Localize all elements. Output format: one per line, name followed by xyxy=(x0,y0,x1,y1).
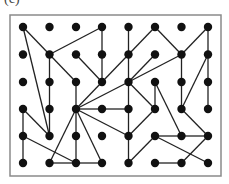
graph-node xyxy=(177,132,185,140)
graph-node xyxy=(204,50,212,58)
graph-node xyxy=(177,105,185,113)
graph-node xyxy=(45,132,53,140)
graph-node xyxy=(98,159,106,167)
graph-edge xyxy=(129,136,156,163)
graph-node xyxy=(151,132,159,140)
graph-node xyxy=(177,159,185,167)
graph-edge xyxy=(155,27,182,55)
graph-node xyxy=(151,105,159,113)
graph-node xyxy=(72,23,80,31)
graph-node xyxy=(204,159,212,167)
graph-node xyxy=(124,78,132,86)
graph-edge xyxy=(76,82,102,109)
graph-node xyxy=(45,23,53,31)
graph-node xyxy=(98,78,106,86)
graph-node xyxy=(45,50,53,58)
graph-node xyxy=(124,23,132,31)
graph-node xyxy=(204,105,212,113)
edges-layer xyxy=(23,27,208,163)
graph-node xyxy=(151,78,159,86)
graph-node xyxy=(177,23,185,31)
graph-edge xyxy=(182,109,209,136)
graph-edge xyxy=(182,27,209,55)
graph-edge xyxy=(23,109,50,136)
graph-edge xyxy=(76,55,102,83)
diagram-frame xyxy=(10,15,221,176)
graph-node xyxy=(98,50,106,58)
graph-edge xyxy=(129,82,156,109)
graph-node xyxy=(45,105,53,113)
graph-node xyxy=(19,132,27,140)
graph-node xyxy=(72,132,80,140)
graph-node xyxy=(72,159,80,167)
graph-node xyxy=(124,50,132,58)
graph-node xyxy=(151,159,159,167)
graph-node xyxy=(19,50,27,58)
graph-edge xyxy=(182,136,209,163)
graph-node xyxy=(72,50,80,58)
graph-node xyxy=(98,132,106,140)
graph-node xyxy=(98,23,106,31)
nodes-layer xyxy=(19,23,212,167)
graph-node xyxy=(151,23,159,31)
graph-node xyxy=(72,78,80,86)
graph-node xyxy=(177,50,185,58)
graph-node xyxy=(19,23,27,31)
grid-graph-diagram xyxy=(0,0,229,184)
graph-edge xyxy=(129,27,156,55)
graph-edge xyxy=(129,109,156,136)
graph-edge xyxy=(129,55,156,83)
graph-edge xyxy=(50,55,77,83)
graph-node xyxy=(151,50,159,58)
graph-node xyxy=(45,159,53,167)
graph-node xyxy=(98,105,106,113)
graph-node xyxy=(124,105,132,113)
graph-node xyxy=(204,78,212,86)
graph-node xyxy=(124,159,132,167)
graph-node xyxy=(204,132,212,140)
graph-edge xyxy=(102,55,129,83)
graph-node xyxy=(19,159,27,167)
graph-node xyxy=(19,78,27,86)
graph-node xyxy=(204,23,212,31)
graph-node xyxy=(124,132,132,140)
graph-node xyxy=(177,78,185,86)
graph-node xyxy=(72,105,80,113)
graph-node xyxy=(19,105,27,113)
graph-node xyxy=(45,78,53,86)
